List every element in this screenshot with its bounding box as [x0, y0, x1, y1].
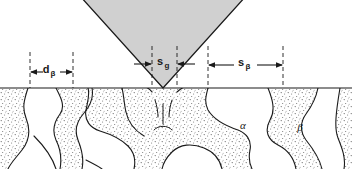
beta-phase-label: β	[296, 121, 303, 133]
s-beta-symbol: s	[238, 56, 244, 68]
indentation-figure: d β s g s β α β	[0, 0, 352, 169]
s-g-symbol: s	[157, 55, 163, 67]
dimension-s-beta: s β	[208, 46, 283, 88]
s-beta-arrowhead-right	[276, 62, 283, 67]
d-beta-arrowhead-right	[66, 69, 73, 74]
figure-canvas: d β s g s β α β	[0, 0, 352, 169]
s-beta-arrowhead-left	[208, 62, 215, 67]
d-beta-arrowhead-left	[30, 69, 37, 74]
s-g-subscript: g	[165, 61, 170, 70]
d-beta-subscript: β	[51, 69, 56, 78]
alpha-phase-label: α	[240, 119, 246, 131]
dimension-d-beta: d β	[30, 52, 73, 88]
pyramidal-indenter	[80, 0, 246, 88]
d-beta-symbol: d	[43, 63, 50, 75]
s-beta-subscript: β	[246, 62, 251, 71]
